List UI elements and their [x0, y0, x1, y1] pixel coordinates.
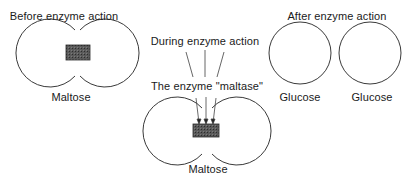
glucose-ring-2 [339, 22, 401, 84]
glucose-ring-right [212, 97, 271, 165]
during-title: During enzyme action [151, 35, 259, 47]
after-title: After enzyme action [287, 10, 386, 22]
glucose-after [269, 22, 401, 84]
maltose-before [16, 19, 139, 87]
enzyme-label: The enzyme "maltase" [151, 80, 263, 92]
glucose-ring-1 [269, 22, 331, 84]
glycosidic-bond [193, 124, 219, 137]
glucose-label-2: Glucose [351, 91, 392, 103]
before-title: Before enzyme action [10, 10, 118, 22]
before-molecule-label: Maltose [51, 91, 90, 103]
glycosidic-bond [66, 45, 90, 60]
enzyme-arrows-icon [196, 97, 216, 124]
glucose-label-1: Glucose [279, 91, 320, 103]
during-molecule-label: Maltose [188, 163, 227, 175]
maltose-during [143, 97, 271, 165]
enzyme-pointer-lines [186, 50, 224, 77]
